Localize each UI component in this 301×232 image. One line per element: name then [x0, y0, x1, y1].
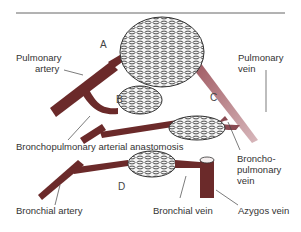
bronchial-artery-vessel [38, 160, 84, 200]
label-letter-d: D [118, 181, 125, 192]
label-letter-c: C [210, 92, 217, 103]
capillary-bed-a [120, 17, 204, 87]
label-pulmonary-vein-2: vein [238, 63, 255, 74]
capillary-bed-b [118, 86, 162, 114]
label-bronchial-vein: Bronchial vein [153, 205, 213, 216]
label-bronchial-artery: Bronchial artery [16, 205, 83, 216]
azygos-vein-vessel [200, 160, 214, 198]
label-bronchopulmonary-vein-1: Broncho- [237, 153, 276, 164]
label-letter-b: B [116, 94, 123, 105]
label-letter-a: A [100, 39, 107, 50]
label-bronchopulmonary-vein-3: vein [237, 175, 254, 186]
label-azygos-vein: Azygos vein [238, 205, 289, 216]
label-bronchopulmonary-vein-2: pulmonary [237, 164, 281, 175]
label-pulmonary-artery-2: artery [35, 63, 59, 74]
label-anastomosis: Bronchopulmonary arterial anastomosis [16, 141, 183, 152]
label-pulmonary-artery-1: Pulmonary [16, 52, 61, 63]
capillary-bed-d [128, 151, 176, 177]
vessel-drawing [0, 0, 301, 232]
diagram-figure: A B C D Pulmonary artery Pulmonary vein … [0, 0, 301, 232]
capillary-bed-c [169, 116, 225, 140]
label-pulmonary-vein-1: Pulmonary [238, 52, 283, 63]
